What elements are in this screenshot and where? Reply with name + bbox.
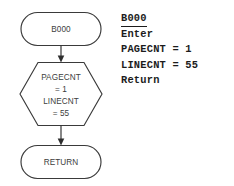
pseudocode-block: B000 Enter PAGECNT = 1 LINECNT = 55 Retu… [121,11,234,88]
flow-connector-hexagon-to-end [58,126,65,146]
flow-node-start-terminator: B000 [21,13,101,46]
arrowhead-icon [58,56,65,63]
flow-node-label: PAGECNT [41,73,81,82]
pseudocode-line: Return [121,73,234,88]
pseudocode-text: LINECNT = 55 [121,58,198,73]
figure-root: B000 PAGECNT = 1 LINECNT = 55 RETURN B00… [0,0,234,186]
pseudocode-line: PAGECNT = 1 [121,42,234,57]
flowchart: B000 PAGECNT = 1 LINECNT = 55 RETURN [0,0,117,186]
flow-node-preparation-hexagon: PAGECNT = 1 LINECNT = 55 [20,63,102,126]
flow-node-label: RETURN [44,158,79,167]
arrowhead-icon [58,139,65,146]
flow-node-label: LINECNT [43,97,79,106]
pseudocode-text: Enter [121,27,153,42]
flow-node-label: = 55 [53,109,70,118]
flow-node-label: = 1 [55,85,67,94]
pseudocode-line: Enter [121,27,234,42]
pseudocode-text: B000 [121,11,147,27]
pseudocode-text: Return [121,73,160,88]
flow-connector-start-to-hexagon [58,46,65,63]
flow-node-label: B000 [51,25,71,34]
pseudocode-line: B000 [121,11,234,27]
flow-node-end-terminator: RETURN [21,146,101,179]
pseudocode-text: PAGECNT = 1 [121,42,192,57]
pseudocode-line: LINECNT = 55 [121,58,234,73]
